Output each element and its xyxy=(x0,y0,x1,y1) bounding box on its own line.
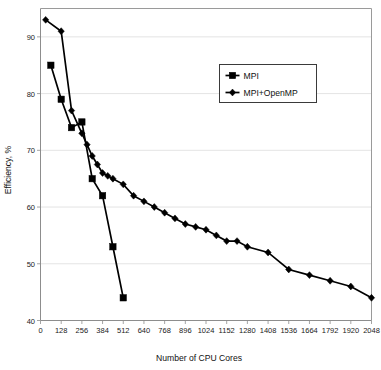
legend-label[interactable]: MPI+OpenMP xyxy=(244,88,298,98)
y-tick-label: 60 xyxy=(27,203,35,212)
x-tick-label: 0 xyxy=(38,326,42,335)
legend-label[interactable]: MPI xyxy=(244,71,259,81)
x-tick-label: 256 xyxy=(76,326,89,335)
y-tick-label: 50 xyxy=(27,260,35,269)
chart-legend[interactable]: MPIMPI+OpenMP xyxy=(220,65,317,103)
x-tick-label: 512 xyxy=(117,326,130,335)
data-point-marker xyxy=(110,244,116,250)
x-tick-label: 640 xyxy=(138,326,151,335)
y-axis-title: Efficiency, % xyxy=(3,145,13,194)
x-tick-label: 1920 xyxy=(342,326,359,335)
x-tick-label: 1664 xyxy=(301,326,318,335)
data-point-marker xyxy=(48,62,54,68)
y-tick-label: 40 xyxy=(27,317,35,326)
chart-background xyxy=(0,0,381,370)
data-point-marker xyxy=(89,175,95,181)
x-tick-label: 768 xyxy=(158,326,171,335)
x-tick-label: 1152 xyxy=(219,326,235,335)
data-point-marker xyxy=(99,193,105,199)
x-tick-label: 1024 xyxy=(198,326,215,335)
chart-container: 0128256384512640768896102411521280140815… xyxy=(0,0,381,370)
data-point-marker xyxy=(79,119,85,125)
x-axis-title: Number of CPU Cores xyxy=(156,353,242,363)
x-tick-label: 1792 xyxy=(322,326,339,335)
legend-marker-square xyxy=(229,72,235,78)
data-point-marker xyxy=(58,96,64,102)
x-tick-label: 128 xyxy=(55,326,68,335)
y-tick-label: 70 xyxy=(27,146,35,155)
x-tick-label: 2048 xyxy=(363,326,380,335)
x-tick-label: 384 xyxy=(96,326,109,335)
y-tick-label: 80 xyxy=(27,90,35,99)
x-tick-label: 1408 xyxy=(260,326,277,335)
data-point-marker xyxy=(120,295,126,301)
x-tick-label: 896 xyxy=(179,326,192,335)
efficiency-line-chart: 0128256384512640768896102411521280140815… xyxy=(0,0,381,370)
data-point-marker xyxy=(68,124,74,130)
y-tick-label: 90 xyxy=(27,33,35,42)
x-tick-label: 1280 xyxy=(239,326,256,335)
x-tick-label: 1536 xyxy=(280,326,297,335)
